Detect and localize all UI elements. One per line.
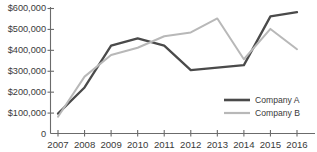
x-axis-tick-label: 2016: [286, 139, 307, 150]
y-axis-tick-labels: 0$100,000$200,000$300,000$400,000$500,00…: [8, 3, 46, 139]
x-axis-tick-label: 2008: [74, 139, 95, 150]
x-axis-tick-label: 2011: [154, 139, 175, 150]
y-axis-tick-label: $300,000: [8, 66, 46, 76]
chart-legend: Company ACompany B: [224, 95, 300, 118]
legend-label: Company B: [255, 108, 300, 118]
y-axis-tick-label: $600,000: [8, 3, 46, 13]
y-axis-tick-label: $200,000: [8, 87, 46, 97]
y-axis-tick-label: $100,000: [8, 108, 46, 118]
chart-canvas: 0$100,000$200,000$300,000$400,000$500,00…: [0, 0, 317, 152]
x-axis-tick-labels: 2007200820092010201120122013201420152016: [47, 139, 307, 150]
y-axis-tick-label: $400,000: [8, 45, 46, 55]
legend-item-company-a[interactable]: Company A: [224, 95, 300, 105]
x-axis-tick-label: 2010: [127, 139, 148, 150]
y-axis-tick-label: 0: [41, 129, 46, 139]
x-axis-tick-label: 2015: [260, 139, 281, 150]
x-axis-tick-label: 2009: [100, 139, 121, 150]
x-axis-tick-label: 2012: [180, 139, 201, 150]
legend-item-company-b[interactable]: Company B: [224, 108, 300, 118]
x-axis-tick-label: 2014: [233, 139, 255, 150]
x-axis-tick-label: 2007: [47, 139, 68, 150]
y-axis-tick-label: $500,000: [8, 24, 46, 34]
legend-label: Company A: [255, 95, 300, 105]
x-axis-tick-label: 2013: [207, 139, 228, 150]
line-chart: 0$100,000$200,000$300,000$400,000$500,00…: [0, 0, 317, 152]
